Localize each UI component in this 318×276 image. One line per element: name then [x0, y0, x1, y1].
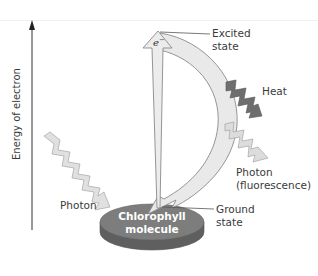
energy-axis: Energy of electron — [11, 20, 35, 230]
excited-state-label-line2: state — [212, 40, 239, 52]
fluorescence-photon-arrow: Photon (fluorescence) — [225, 122, 311, 191]
excitation-arrow — [143, 31, 172, 208]
fluorescence-label-line1: Photon — [236, 166, 273, 178]
incoming-photon-arrow: Photon — [44, 132, 110, 211]
heat-label: Heat — [262, 85, 287, 97]
incoming-photon-label: Photon — [60, 199, 97, 211]
excited-state-label-line1: Excited — [212, 27, 251, 39]
ground-state-label-line2: state — [216, 216, 243, 228]
photoexcitation-diagram: Energy of electron Chlorophyll molecule … — [0, 0, 318, 276]
fluorescence-label-line2: (fluorescence) — [236, 179, 311, 191]
axis-label: Energy of electron — [11, 68, 22, 160]
ground-state-label-line1: Ground — [216, 203, 255, 215]
molecule-label-line2: molecule — [125, 223, 178, 235]
axis-arrowhead-icon — [29, 20, 35, 30]
